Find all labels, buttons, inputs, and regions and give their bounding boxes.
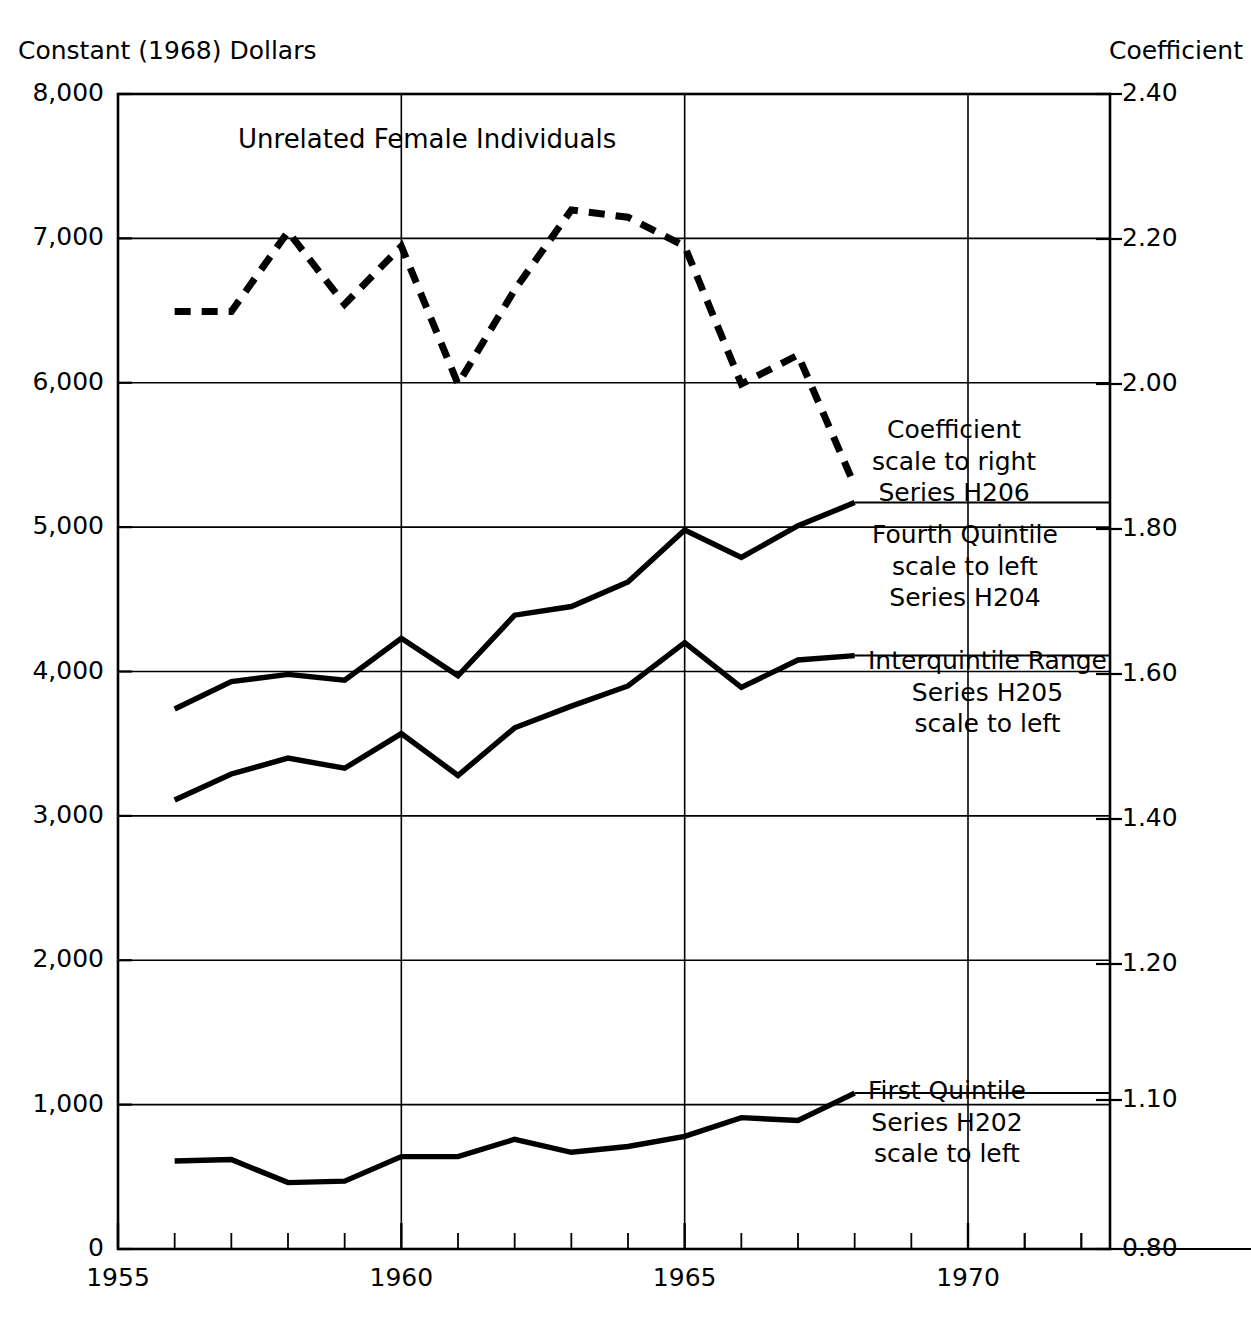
left-tick-label: 8,000 — [8, 78, 104, 107]
annotation-line: scale to left — [868, 1138, 1026, 1170]
right-tick-label: 2.00 — [1122, 368, 1178, 397]
annotation-line: Series H204 — [872, 582, 1058, 614]
annotation-coefficient-h206: Coefficientscale to rightSeries H206 — [872, 414, 1036, 509]
annotation-line: Coefficient — [872, 414, 1036, 446]
left-tick-label: 6,000 — [8, 367, 104, 396]
right-tick-label: 2.40 — [1122, 78, 1178, 107]
right-tick-label: 1.60 — [1122, 658, 1178, 687]
annotation-line: Interquintile Range — [868, 645, 1107, 677]
annotation-line: Fourth Quintile — [872, 519, 1058, 551]
x-tick-label: 1960 — [341, 1263, 461, 1292]
right-tick-label: 0.80 — [1122, 1233, 1178, 1262]
annotation-line: scale to right — [872, 446, 1036, 478]
right-tick-label: 2.20 — [1122, 223, 1178, 252]
left-tick-label: 5,000 — [8, 511, 104, 540]
annotation-first-quintile-h202: First QuintileSeries H202scale to left — [868, 1075, 1026, 1170]
series-line-coefficient-series-h206 — [175, 210, 855, 486]
left-tick-label: 7,000 — [8, 222, 104, 251]
data-series-group — [175, 210, 855, 1183]
annotation-fourth-quintile-h204: Fourth Quintilescale to leftSeries H204 — [872, 519, 1058, 614]
annotation-line: scale to left — [868, 708, 1107, 740]
annotation-line: scale to left — [872, 551, 1058, 583]
right-tick-label: 1.20 — [1122, 948, 1178, 977]
left-tick-label: 3,000 — [8, 800, 104, 829]
left-tick-label: 2,000 — [8, 944, 104, 973]
annotation-interquintile-range-h205: Interquintile RangeSeries H205scale to l… — [868, 645, 1107, 740]
right-tick-label: 1.10 — [1122, 1084, 1178, 1113]
series-line-fourth-quintile-series-h204 — [175, 503, 855, 709]
annotation-line: Series H206 — [872, 477, 1036, 509]
annotation-line: First Quintile — [868, 1075, 1026, 1107]
right-tick-label: 1.80 — [1122, 513, 1178, 542]
series-line-first-quintile-series-h202 — [175, 1093, 855, 1183]
annotation-line: Series H205 — [868, 677, 1107, 709]
x-tick-label: 1970 — [908, 1263, 1028, 1292]
x-tick-label: 1965 — [625, 1263, 745, 1292]
series-line-interquintile-range-series-h205 — [175, 643, 855, 800]
x-tick-label: 1955 — [58, 1263, 178, 1292]
left-tick-label: 0 — [8, 1233, 104, 1262]
left-tick-label: 4,000 — [8, 656, 104, 685]
annotation-line: Series H202 — [868, 1107, 1026, 1139]
chart-container: Constant (1968) Dollars Coefficient Unre… — [0, 0, 1251, 1318]
left-tick-label: 1,000 — [8, 1089, 104, 1118]
right-tick-label: 1.40 — [1122, 803, 1178, 832]
